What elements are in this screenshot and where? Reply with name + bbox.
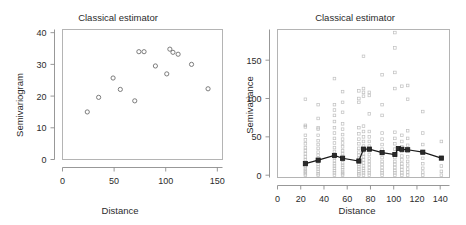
right-panel-mean-series [303,146,443,165]
cloud-point [381,156,384,159]
cloud-point [406,174,409,177]
cloud-point [317,151,320,154]
cloud-point [333,150,336,153]
left-panel-x-axis: 050100150 [60,168,225,186]
left-panel-svg: Classical estimator Distance Semivariogr… [0,0,233,225]
cloud-point [381,103,384,106]
cloud-point [341,138,344,141]
cloud-point [333,137,336,140]
cloud-point [317,134,320,137]
cloud-point [394,166,397,169]
right-x-tick-label: 60 [342,194,352,204]
cloud-point [317,143,320,146]
cloud-point [401,162,404,165]
cloud-point [421,110,424,113]
cloud-point [406,84,409,87]
cloud-point [440,140,443,143]
left-y-tick-label: 10 [36,123,46,133]
cloud-point [368,130,371,133]
cloud-point [406,98,409,101]
cloud-point [440,165,443,168]
right-panel-cloud-points [304,31,443,176]
classical-estimate-marker [439,156,443,160]
classical-estimate-marker [367,147,371,151]
data-point [206,87,210,91]
right-y-tick-label: 50 [251,132,261,142]
cloud-point [368,157,371,160]
cloud-point [362,140,365,143]
cloud-point [394,142,397,145]
cloud-point [368,94,371,97]
cloud-point [421,174,424,177]
figure-two-panel-semivariogram: Classical estimator Distance Semivariogr… [0,0,466,225]
cloud-point [401,169,404,172]
cloud-point [401,85,404,88]
cloud-point [421,143,424,146]
data-point [176,52,180,56]
right-x-tick-label: 120 [409,194,424,204]
cloud-point [362,155,365,158]
cloud-point [368,160,371,163]
cloud-point [394,137,397,140]
cloud-point [406,171,409,174]
cloud-point [421,167,424,170]
cloud-point [440,170,443,173]
classical-estimate-marker [303,162,307,166]
classical-estimate-marker [400,147,404,151]
cloud-point [368,136,371,139]
cloud-point [381,73,384,76]
left-panel-plot-area: 050100150 010203040 [36,28,224,185]
cloud-point [381,143,384,146]
cloud-point [358,154,361,157]
data-point [171,50,175,54]
cloud-point [341,111,344,114]
left-x-tick-label: 0 [60,176,65,186]
cloud-point [362,125,365,128]
right-x-tick-label: 20 [296,194,306,204]
cloud-point [368,166,371,169]
cloud-point [368,91,371,94]
cloud-point [401,155,404,158]
cloud-point [358,126,361,129]
cloud-point [406,144,409,147]
cloud-point [333,109,336,112]
cloud-point [368,153,371,156]
right-y-tick-label: 0 [256,171,261,181]
cloud-point [381,160,384,163]
right-x-tick-label: 0 [275,194,280,204]
cloud-point [341,142,344,145]
left-panel-ylabel: Semivariogram [14,73,25,137]
cloud-point [304,152,307,155]
right-panel-classical-estimator: Classical estimator Distance Semivarianc… [233,0,466,225]
cloud-point [381,132,384,135]
cloud-point [358,138,361,141]
cloud-point [406,168,409,171]
cloud-point [394,148,397,151]
cloud-point [341,101,344,104]
classical-estimate-marker [332,153,336,157]
cloud-point [333,77,336,80]
cloud-point [333,120,336,123]
cloud-point [304,155,307,158]
data-point [189,62,193,66]
data-point [118,87,122,91]
cloud-point [394,163,397,166]
data-point [142,50,146,54]
cloud-point [381,163,384,166]
cloud-point [362,55,365,58]
cloud-point [317,117,320,120]
cloud-point [406,137,409,140]
data-point [137,50,141,54]
classical-estimate-marker [406,148,410,152]
cloud-point [333,114,336,117]
classical-estimate-marker [357,159,361,163]
cloud-point [358,101,361,104]
cloud-point [304,134,307,137]
left-x-tick-label: 150 [210,176,225,186]
cloud-point [341,128,344,131]
cloud-point [362,87,365,90]
cloud-point [304,142,307,145]
cloud-point [341,90,344,93]
cloud-point [333,132,336,135]
cloud-point [368,113,371,116]
